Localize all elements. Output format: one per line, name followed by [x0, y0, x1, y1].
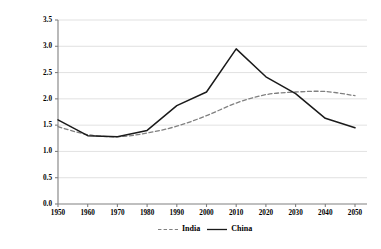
legend-label-china: China [231, 224, 252, 234]
chart-legend: India China [158, 224, 252, 234]
legend-entry-india[interactable]: India [158, 224, 200, 234]
axis-lines [58, 20, 367, 204]
gridlines [58, 20, 367, 178]
y-tick-label: 3.5 [30, 16, 52, 24]
y-tick-label: 2.0 [30, 95, 52, 103]
x-tick-label: 1990 [162, 209, 192, 217]
x-tick-label: 2010 [221, 209, 251, 217]
series-lines [58, 49, 355, 137]
x-tick-label: 1950 [43, 209, 73, 217]
y-tick-label: 1.0 [30, 147, 52, 155]
y-tick-label: 2.5 [30, 69, 52, 77]
y-tick-label: 1.5 [30, 121, 52, 129]
x-tick-label: 2030 [281, 209, 311, 217]
x-tick-label: 1960 [73, 209, 103, 217]
legend-entry-china[interactable]: China [207, 224, 252, 234]
x-tick-label: 1980 [132, 209, 162, 217]
legend-swatch-india [158, 226, 178, 233]
x-tick-label: 2020 [251, 209, 281, 217]
x-tick-label: 2040 [310, 209, 340, 217]
y-tick-label: 0.5 [30, 174, 52, 182]
series-line-china [58, 49, 355, 137]
x-tick-label: 2050 [340, 209, 370, 217]
chart-container: Ratio of working-age to non-working-age … [0, 0, 381, 249]
series-line-india [58, 91, 355, 137]
y-tick-label: 0.0 [30, 200, 52, 208]
x-tick-label: 1970 [102, 209, 132, 217]
y-tick-label: 3.0 [30, 42, 52, 50]
legend-label-india: India [182, 224, 200, 234]
legend-swatch-china [207, 226, 227, 233]
x-tick-label: 2000 [192, 209, 222, 217]
